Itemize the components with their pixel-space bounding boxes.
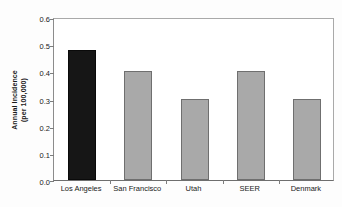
y-axis-tick-mark: [50, 19, 54, 20]
y-axis-tick-label: 0.5: [40, 42, 50, 51]
plot-area: [53, 18, 334, 181]
bar: [293, 99, 321, 181]
y-axis-tick-label: 0.3: [40, 96, 50, 105]
y-axis-title-line1: Annual Incidence: [11, 70, 18, 130]
bar: [181, 99, 209, 181]
bar-chart: Annual Incidence (per 100,000) 0.00.10.2…: [0, 0, 342, 207]
y-axis-tick-mark: [50, 73, 54, 74]
x-axis-category-label: San Francisco: [113, 184, 161, 193]
x-axis-category-label: Denmark: [291, 184, 321, 193]
y-axis-tick-label: 0.6: [40, 15, 50, 24]
x-axis-category-label: SEER: [239, 184, 259, 193]
bar: [68, 50, 96, 180]
y-axis-tick-label: 0.0: [40, 178, 50, 187]
bar: [237, 71, 265, 180]
y-axis-tick-label: 0.1: [40, 150, 50, 159]
y-axis-tick-mark: [50, 101, 54, 102]
bars-layer: [54, 19, 333, 180]
bar: [124, 71, 152, 180]
y-axis-tick-labels: 0.00.10.20.30.40.50.6: [26, 18, 50, 181]
y-axis-tick-mark: [50, 128, 54, 129]
x-axis-category-label: Utah: [186, 184, 202, 193]
y-axis-tick-label: 0.2: [40, 123, 50, 132]
x-axis-category-labels: Los AngelesSan FranciscoUtahSEERDenmark: [53, 184, 334, 200]
y-axis-tick-mark: [50, 46, 54, 47]
y-axis-tick-mark: [50, 155, 54, 156]
x-axis-category-label: Los Angeles: [61, 184, 102, 193]
y-axis-tick-label: 0.4: [40, 69, 50, 78]
y-axis-tick-mark: [50, 181, 54, 182]
